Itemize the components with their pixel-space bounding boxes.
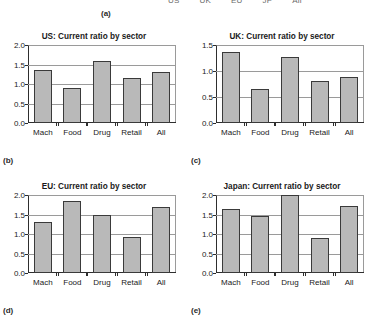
- bar-us-food[interactable]: [63, 88, 81, 123]
- bar-eu-food[interactable]: [63, 201, 81, 273]
- bar-uk-food[interactable]: [251, 89, 269, 123]
- bar-slot-japan-all: [335, 195, 364, 273]
- x-axis-label-eu-retail: Retail: [117, 278, 146, 287]
- y-axis-label-japan-0: 0.0: [202, 269, 213, 278]
- bar-slot-japan-mach: [216, 195, 245, 273]
- x-tick-uk-drug: [275, 123, 304, 127]
- bar-slot-uk-drug: [275, 45, 304, 123]
- bar-slot-us-mach: [28, 45, 57, 123]
- chart-title-us: US: Current ratio by sector: [0, 32, 188, 41]
- bar-eu-drug[interactable]: [93, 215, 111, 273]
- y-axis-label-uk-2: 1.0: [202, 67, 213, 76]
- x-axis-label-japan-mach: Mach: [216, 278, 245, 287]
- bar-slot-eu-food: [58, 195, 87, 273]
- y-axis-label-japan-2: 1.0: [202, 230, 213, 239]
- x-axis-label-us-drug: Drug: [87, 128, 116, 137]
- bar-slot-eu-all: [147, 195, 176, 273]
- x-tick-us-retail: [117, 123, 146, 127]
- bar-slot-japan-food: [246, 195, 275, 273]
- x-tick-us-drug: [87, 123, 116, 127]
- x-tick-uk-mach: [216, 123, 245, 127]
- y-axis-label-japan-3: 1.5: [202, 210, 213, 219]
- legend-label-uk: UK: [200, 0, 212, 5]
- x-axis-label-japan-drug: Drug: [275, 278, 304, 287]
- bar-japan-all[interactable]: [340, 206, 358, 273]
- x-tick-japan-all: [335, 273, 364, 277]
- x-axis-label-us-mach: Mach: [28, 128, 57, 137]
- bar-slot-japan-drug: [275, 195, 304, 273]
- x-axis-label-us-all: All: [147, 128, 176, 137]
- panel-letter-d: (d): [3, 306, 13, 315]
- bar-slot-eu-mach: [28, 195, 57, 273]
- bar-slot-uk-all: [335, 45, 364, 123]
- x-axis-labels-uk: MachFoodDrugRetailAll: [216, 128, 364, 137]
- bar-us-drug[interactable]: [93, 61, 111, 123]
- bar-japan-retail[interactable]: [311, 238, 329, 273]
- bar-series-uk: [216, 45, 364, 123]
- bar-slot-us-drug: [87, 45, 116, 123]
- x-axis-label-japan-food: Food: [246, 278, 275, 287]
- bar-us-retail[interactable]: [123, 78, 141, 123]
- y-axis-label-eu-1: 0.5: [14, 249, 25, 258]
- y-axis-label-us-2: 1.0: [14, 80, 25, 89]
- truncated-legend-labels: US UK EU JP All: [168, 0, 302, 5]
- bar-slot-us-retail: [117, 45, 146, 123]
- y-axis-label-eu-2: 1.0: [14, 230, 25, 239]
- plot-area-us: 0.00.51.01.52.0: [28, 45, 176, 123]
- x-tick-uk-food: [246, 123, 275, 127]
- plot-area-eu: 0.00.51.01.52.0: [28, 195, 176, 273]
- bar-slot-eu-retail: [117, 195, 146, 273]
- x-tick-uk-all: [335, 123, 364, 127]
- chart-us: US: Current ratio by sector0.00.51.01.52…: [0, 32, 188, 150]
- bar-japan-drug[interactable]: [281, 195, 299, 273]
- bar-japan-mach[interactable]: [222, 209, 240, 273]
- x-axis-label-uk-drug: Drug: [275, 128, 304, 137]
- y-axis-label-japan-4: 2.0: [202, 191, 213, 200]
- bar-series-us: [28, 45, 176, 123]
- x-axis-label-eu-food: Food: [58, 278, 87, 287]
- panel-letter-c: (c): [191, 156, 201, 165]
- x-tick-eu-food: [58, 273, 87, 277]
- bar-uk-all[interactable]: [340, 77, 358, 123]
- bar-uk-mach[interactable]: [222, 52, 240, 123]
- chart-uk: UK: Current ratio by sector0.00.51.01.5M…: [188, 32, 376, 150]
- x-axis-label-japan-all: All: [335, 278, 364, 287]
- y-axis-label-japan-1: 0.5: [202, 249, 213, 258]
- x-tick-row-eu: [28, 273, 176, 277]
- y-axis-label-us-3: 1.5: [14, 60, 25, 69]
- panel-letter-e: (e): [191, 306, 201, 315]
- x-tick-us-mach: [28, 123, 57, 127]
- x-tick-japan-drug: [275, 273, 304, 277]
- bar-slot-us-all: [147, 45, 176, 123]
- bar-japan-food[interactable]: [251, 216, 269, 273]
- bar-eu-mach[interactable]: [34, 222, 52, 273]
- legend-label-eu: EU: [231, 0, 243, 5]
- bar-eu-all[interactable]: [152, 207, 170, 273]
- x-tick-us-food: [58, 123, 87, 127]
- chart-title-japan: Japan: Current ratio by sector: [188, 182, 376, 191]
- x-axis-label-eu-mach: Mach: [28, 278, 57, 287]
- y-axis-label-uk-1: 0.5: [202, 93, 213, 102]
- legend-label-us: US: [168, 0, 180, 5]
- x-axis-label-uk-all: All: [335, 128, 364, 137]
- y-axis-label-us-1: 0.5: [14, 99, 25, 108]
- bar-uk-retail[interactable]: [311, 81, 329, 123]
- x-tick-eu-mach: [28, 273, 57, 277]
- bar-eu-retail[interactable]: [123, 237, 141, 273]
- bar-slot-uk-food: [246, 45, 275, 123]
- bar-slot-uk-mach: [216, 45, 245, 123]
- y-axis-label-us-4: 2.0: [14, 41, 25, 50]
- x-axis-label-japan-retail: Retail: [305, 278, 334, 287]
- bar-us-all[interactable]: [152, 72, 170, 123]
- bar-us-mach[interactable]: [34, 70, 52, 123]
- panel-letter-b: (b): [3, 156, 13, 165]
- x-tick-row-japan: [216, 273, 364, 277]
- x-axis-labels-eu: MachFoodDrugRetailAll: [28, 278, 176, 287]
- chart-japan: Japan: Current ratio by sector0.00.51.01…: [188, 182, 376, 300]
- x-axis-label-us-food: Food: [58, 128, 87, 137]
- x-axis-label-eu-drug: Drug: [87, 278, 116, 287]
- y-axis-label-uk-0: 0.0: [202, 119, 213, 128]
- x-axis-label-eu-all: All: [147, 278, 176, 287]
- y-axis-label-us-0: 0.0: [14, 119, 25, 128]
- bar-uk-drug[interactable]: [281, 57, 299, 123]
